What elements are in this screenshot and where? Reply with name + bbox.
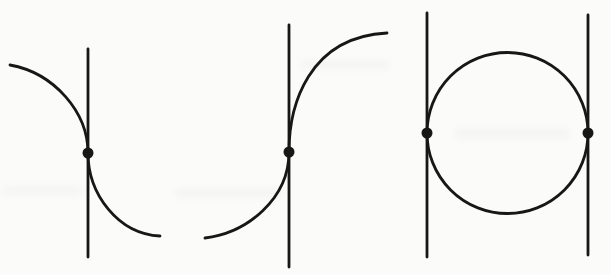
circle-curve <box>427 53 588 214</box>
panel-circle-two-vertical-tangents <box>422 13 594 257</box>
function-curve <box>205 33 387 238</box>
panel-increasing-curve-vertical-tangent <box>205 25 387 267</box>
vertical-tangent-figure <box>0 0 611 275</box>
tangency-point-dot <box>284 147 295 158</box>
tangency-point-dot <box>583 128 594 139</box>
diagram-svg <box>0 0 611 275</box>
tangency-point-dot <box>83 148 94 159</box>
panel-decreasing-curve-vertical-tangent <box>10 49 160 257</box>
tangency-point-dot <box>422 128 433 139</box>
